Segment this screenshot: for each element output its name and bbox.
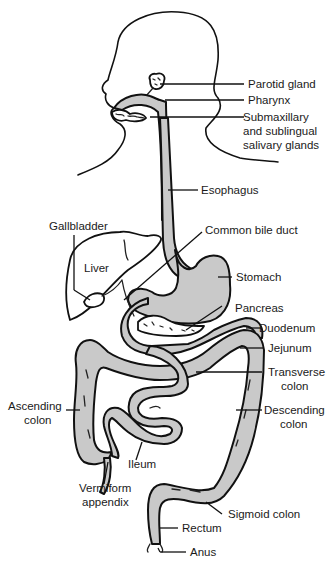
label-appendix-line-1: Vermiform (79, 482, 131, 494)
label-ileum: Ileum (128, 458, 156, 470)
label-pharynx: Pharynx (248, 94, 290, 106)
label-sigmoid-colon: Sigmoid colon (228, 508, 300, 520)
label-rectum: Rectum (182, 522, 222, 534)
label-anus: Anus (190, 546, 216, 558)
stomach (128, 250, 230, 324)
label-transverse-colon-line-2: colon (281, 380, 309, 392)
parotid-gland (149, 73, 164, 89)
label-ascending-colon-line-1: Ascending (8, 400, 62, 412)
label-salivary-line-2: and sublingual (243, 125, 317, 137)
label-salivary-line-1: Submaxillary (243, 111, 309, 123)
intestine-fold (150, 407, 160, 409)
anus-opening (147, 544, 163, 552)
label-pancreas: Pancreas (235, 302, 284, 314)
label-duodenum: Duodenum (259, 322, 315, 334)
label-parotid-gland: Parotid gland (248, 78, 316, 90)
digestive-system-diagram: Parotid gland Pharynx Submaxillary and s… (0, 0, 330, 568)
label-descending-colon-line-2: colon (280, 418, 308, 430)
label-liver: Liver (84, 262, 109, 274)
label-gallbladder: Gallbladder (49, 220, 108, 232)
label-transverse-colon-line-1: Transverse (268, 366, 325, 378)
label-stomach: Stomach (236, 271, 281, 283)
label-common-bile-duct: Common bile duct (205, 224, 298, 236)
label-esophagus: Esophagus (201, 184, 259, 196)
label-salivary-line-3: salivary glands (243, 139, 319, 151)
label-jejunum: Jejunum (268, 342, 311, 354)
label-descending-colon-line-1: Descending (264, 404, 325, 416)
label-ascending-colon-line-2: colon (24, 414, 52, 426)
label-appendix-line-2: appendix (82, 496, 129, 508)
